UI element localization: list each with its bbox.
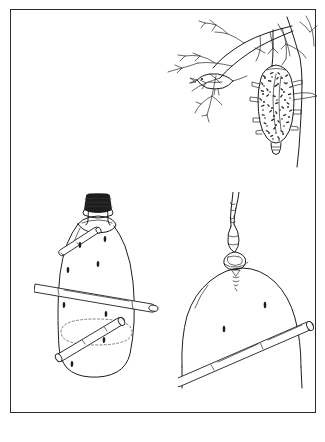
- bottle-screw-cap: [83, 193, 113, 218]
- upper-small-dowel-perch: [59, 226, 102, 255]
- illustration-plate: [0, 0, 325, 442]
- figure-bagworm-on-branch: [160, 12, 318, 172]
- bagworm-case: [250, 65, 317, 155]
- dome-dowel-perch: [178, 320, 315, 386]
- tree-branch: [168, 20, 317, 91]
- twisted-wire-hanger: [224, 192, 248, 270]
- figure-bottle-feeder: [34, 192, 174, 392]
- perched-bird: [190, 74, 247, 95]
- figure-feeder-bottom-detail: [178, 192, 318, 392]
- feeding-holes: [223, 302, 267, 332]
- screw-eye: [232, 270, 240, 291]
- lower-dowel-perch: [54, 316, 126, 362]
- main-dowel-perch: [34, 284, 159, 312]
- silk-hanging-thread: [272, 30, 273, 66]
